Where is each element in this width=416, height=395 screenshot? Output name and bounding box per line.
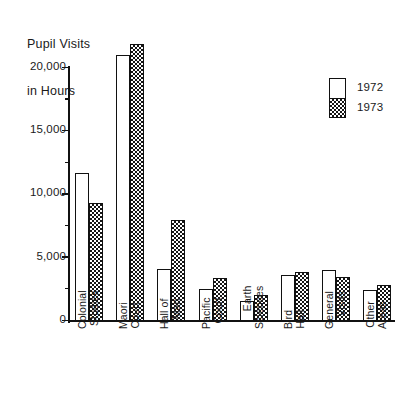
legend-swatch-1972 [330, 79, 345, 98]
category-label-line: Sciences [253, 286, 265, 329]
category-label-line: Hall [295, 310, 307, 329]
legend-label-1972: 1972 [357, 81, 383, 93]
category-label-line: Maori [118, 302, 130, 329]
category-label-line: Pacific [201, 297, 213, 329]
bar-chart: Pupil Visits in Hours 05,00010,00015,000… [0, 0, 416, 395]
category-label-colonial-studies: ColonialStudies [77, 290, 100, 329]
category-label-bird-hall: BirdHall [283, 310, 306, 329]
legend-label-1973: 1973 [357, 101, 383, 113]
category-label-line: Man [171, 299, 183, 329]
category-label-line: Areas [377, 301, 389, 329]
bar-1972-maori-court [116, 55, 130, 321]
category-label-pacific-court: PacificCourt [201, 297, 224, 329]
category-label-line: Studies [89, 290, 101, 329]
category-label-line: General [324, 291, 336, 329]
category-label-line: Earth [242, 286, 254, 329]
category-label-general-visits: GeneralVisits [324, 291, 347, 329]
category-label-other-areas: OtherAreas [365, 301, 388, 329]
bar-1973-maori-court [130, 44, 144, 321]
category-label-line: Colonial [77, 290, 89, 329]
category-label-line: Court [130, 302, 142, 329]
category-label-hall-of-man: Hall ofMan [159, 299, 182, 329]
category-label-earth-sciences: EarthSciences [242, 286, 265, 329]
category-label-line: Bird [283, 310, 295, 329]
legend-swatch-1973 [330, 98, 345, 117]
category-label-line: Court [212, 297, 224, 329]
category-label-line: Visits [336, 291, 348, 329]
bars-layer [0, 0, 416, 395]
category-label-maori-court: MaoriCourt [118, 302, 141, 329]
legend-swatch-box [329, 78, 346, 118]
